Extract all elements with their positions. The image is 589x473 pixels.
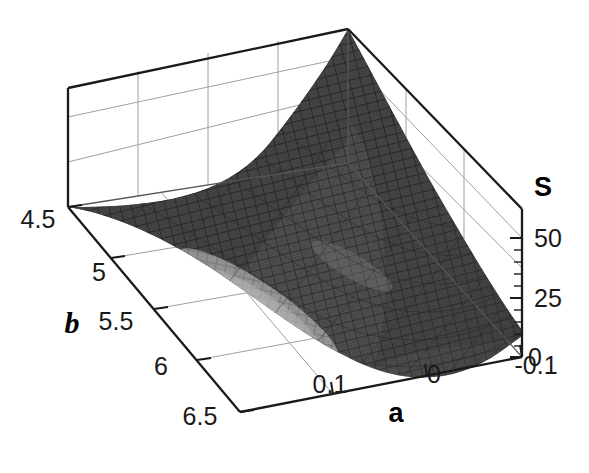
b-axis-title: b: [65, 306, 80, 339]
b-tick-label: 6: [154, 352, 168, 380]
s-tick-label: 0: [528, 343, 542, 371]
b-tick-label: 5.5: [99, 307, 134, 335]
s-tick-label: 25: [534, 284, 562, 312]
plot-canvas: 4.5 5 5.5 6 6.5 0.1 0 -0.1 50 25 0 b a S: [0, 0, 589, 473]
b-tick-label: 4.5: [21, 205, 56, 233]
b-tick-label: 6.5: [183, 402, 218, 430]
a-tick-label: 0.1: [313, 370, 348, 398]
a-axis-title: a: [388, 398, 404, 428]
a-tick-label: 0: [427, 360, 441, 388]
s-axis-title: S: [534, 172, 552, 202]
b-tick-label: 5: [92, 258, 106, 286]
s-tick-label: 50: [534, 224, 562, 252]
surface-plot-figure: 4.5 5 5.5 6 6.5 0.1 0 -0.1 50 25 0 b a S: [0, 0, 589, 473]
s-axis-tick-labels: 50 25 0: [528, 224, 562, 371]
